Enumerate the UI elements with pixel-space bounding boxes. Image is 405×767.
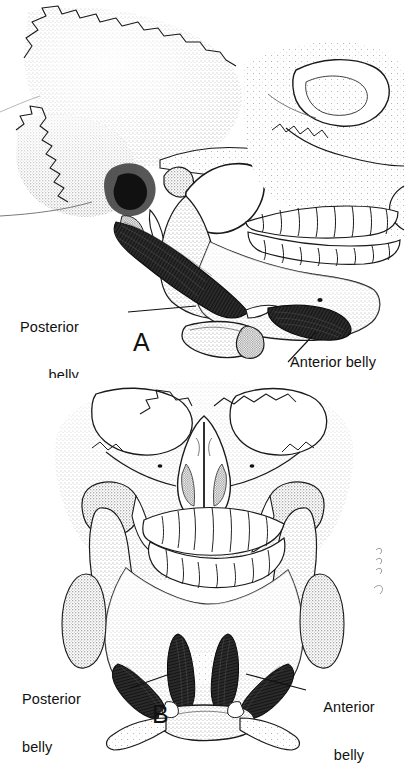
label-anterior-belly-b-line2: belly (306, 747, 392, 763)
label-posterior-belly-b-line1: Posterior (22, 691, 81, 707)
panel-a-lateral-view: Posterior belly Anterior belly A (0, 0, 405, 378)
label-posterior-belly-a-line1: Posterior (20, 319, 79, 335)
label-posterior-belly-b-line2: belly (22, 739, 81, 755)
panel-letter-a: A (133, 328, 150, 357)
label-anterior-belly-a: Anterior belly (290, 355, 376, 371)
panel-letter-b: B (152, 700, 169, 729)
label-anterior-belly-b-line1: Anterior (306, 699, 392, 715)
panel-b-anterior-view: Posterior belly Anterior belly B (0, 378, 405, 751)
label-posterior-belly-b: Posterior belly (22, 659, 81, 767)
label-anterior-belly-b: Anterior belly (306, 667, 392, 767)
